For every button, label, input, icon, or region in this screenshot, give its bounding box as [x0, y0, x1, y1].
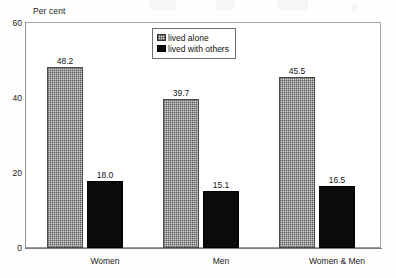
- bar-value-label: 16.5: [329, 176, 346, 185]
- bar-women-lived-alone[interactable]: 48.2: [47, 67, 83, 248]
- bar-group-women-and-men: 45.5 16.5: [279, 23, 376, 248]
- y-tick-label: 0: [0, 243, 22, 253]
- legend-swatch-hatched-icon: [157, 34, 166, 41]
- bar-men-lived-with-others[interactable]: 15.1: [203, 191, 239, 248]
- legend-swatch-solid-icon: [157, 45, 166, 52]
- bar-value-label: 45.5: [289, 67, 306, 76]
- legend-entry-lived-with-others[interactable]: lived with others: [157, 43, 229, 54]
- bar-men-lived-alone[interactable]: 39.7: [163, 99, 199, 248]
- legend-label: lived with others: [168, 44, 229, 54]
- scan-artifact: [150, 0, 176, 10]
- y-tick-label: 20: [0, 168, 22, 178]
- legend: lived alone lived with others: [152, 28, 236, 59]
- y-axis-ticks: 60 40 20 0: [0, 0, 22, 278]
- scan-artifact: [278, 0, 308, 10]
- bar-all-lived-alone[interactable]: 45.5: [279, 77, 315, 248]
- y-axis-caption: Per cent: [33, 6, 65, 16]
- x-category-label-women-and-men: Women & Men: [309, 256, 365, 266]
- y-tick-label: 60: [0, 18, 22, 28]
- bar-group-women: 48.2 18.0: [47, 23, 144, 248]
- bar-chart-figure: Per cent 60 40 20 0 48.2 18.0 39.7 15.1: [0, 0, 396, 278]
- bar-value-label: 15.1: [213, 181, 230, 190]
- legend-entry-lived-alone[interactable]: lived alone: [157, 32, 229, 43]
- x-category-label-men: Men: [213, 256, 230, 266]
- bar-all-lived-with-others[interactable]: 16.5: [319, 186, 355, 248]
- scan-artifact: [352, 4, 358, 11]
- x-axis-line: [25, 248, 382, 249]
- bar-women-lived-with-others[interactable]: 18.0: [87, 181, 123, 248]
- x-category-label-women: Women: [90, 256, 119, 266]
- legend-label: lived alone: [168, 33, 209, 43]
- bar-value-label: 18.0: [97, 171, 114, 180]
- bar-value-label: 39.7: [173, 89, 190, 98]
- scan-artifact: [216, 0, 234, 10]
- y-tick-label: 40: [0, 93, 22, 103]
- bar-value-label: 48.2: [57, 57, 74, 66]
